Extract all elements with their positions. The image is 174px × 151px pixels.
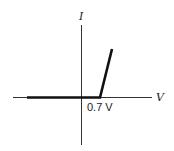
iv-curve xyxy=(27,49,112,98)
x-axis-label: V xyxy=(156,91,165,104)
y-axis-label: I xyxy=(78,10,84,23)
iv-characteristic-diagram: I V 0.7 V xyxy=(0,0,174,151)
threshold-label: 0.7 V xyxy=(87,101,113,113)
